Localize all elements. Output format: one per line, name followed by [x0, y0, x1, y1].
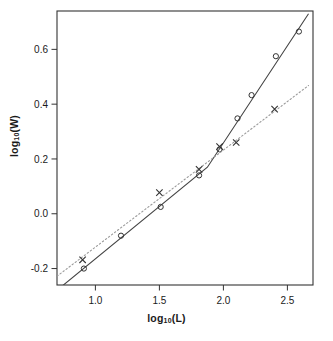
y-tick-label: 0.0 — [34, 208, 48, 219]
data-point-cross — [196, 166, 202, 172]
x-axis-title: log10(L) — [0, 312, 333, 324]
x-tick-label: 1.5 — [152, 295, 166, 306]
y-tick-label: 0.2 — [34, 154, 48, 165]
x-tick-label: 2.5 — [280, 295, 294, 306]
data-point-circle — [249, 93, 254, 98]
fit-line-crosses — [57, 86, 309, 277]
x-tick-label: 2.0 — [216, 295, 230, 306]
chart-figure: 1.01.52.02.5-0.20.00.20.40.6 log10(L) lo… — [0, 0, 333, 341]
data-point-cross — [271, 106, 277, 112]
y-axis-title: log10(W) — [8, 96, 20, 176]
x-tick-label: 1.0 — [88, 295, 102, 306]
data-point-circle — [273, 54, 278, 59]
y-tick-label: 0.4 — [34, 99, 48, 110]
fit-line-circles — [63, 14, 309, 286]
y-tick-label: -0.2 — [31, 263, 49, 274]
plot-area — [57, 14, 309, 286]
data-point-cross — [79, 257, 85, 263]
data-point-cross — [156, 189, 162, 195]
plot-frame — [57, 11, 313, 285]
y-tick-label: 0.6 — [34, 44, 48, 55]
scatter-plot: 1.01.52.02.5-0.20.00.20.40.6 — [0, 0, 333, 341]
